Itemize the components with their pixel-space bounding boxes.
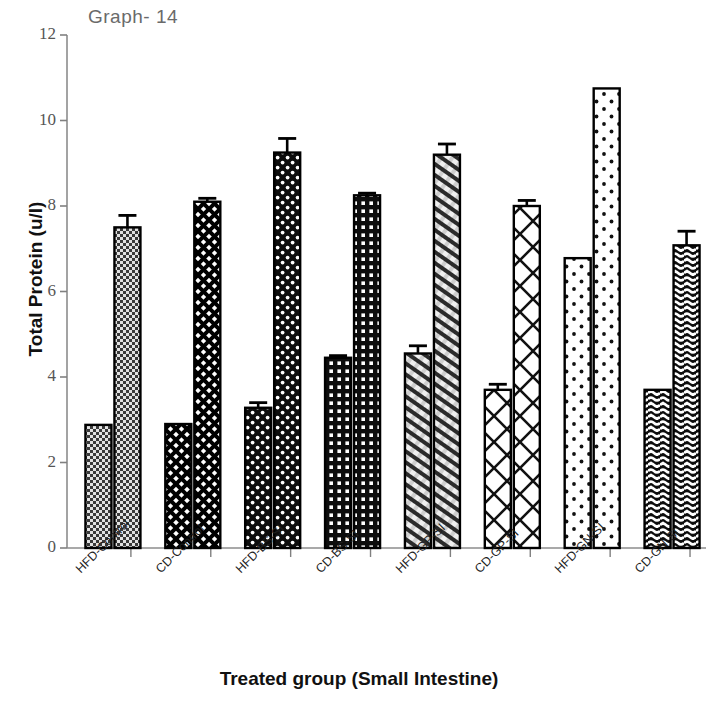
bar	[485, 390, 511, 548]
bar	[245, 408, 271, 548]
y-tick-label: 10	[16, 110, 56, 130]
bar	[434, 155, 460, 548]
bar	[325, 358, 351, 548]
y-tick-label: 0	[16, 537, 56, 557]
bar-group	[85, 88, 699, 548]
bar	[114, 227, 140, 548]
y-tick-label: 2	[16, 452, 56, 472]
error-bar	[678, 231, 696, 245]
bar	[594, 88, 620, 548]
error-bar	[278, 138, 296, 152]
bar	[645, 390, 671, 548]
y-tick-label: 12	[16, 24, 56, 44]
bar	[274, 153, 300, 548]
bar	[405, 353, 431, 548]
bar	[514, 206, 540, 548]
bar	[194, 202, 220, 548]
bar	[165, 424, 191, 548]
y-tick-label: 8	[16, 195, 56, 215]
y-tick-label: 4	[16, 366, 56, 386]
y-tick-label: 6	[16, 281, 56, 301]
chart-figure: Graph- 14 Total Protein (u/l) Treated gr…	[0, 0, 718, 701]
y-tick-marks	[60, 35, 67, 548]
bar	[565, 258, 591, 548]
error-bar	[438, 144, 456, 155]
bar	[354, 195, 380, 548]
plot-area	[0, 0, 718, 701]
bar	[674, 245, 700, 548]
error-bar	[118, 215, 136, 227]
